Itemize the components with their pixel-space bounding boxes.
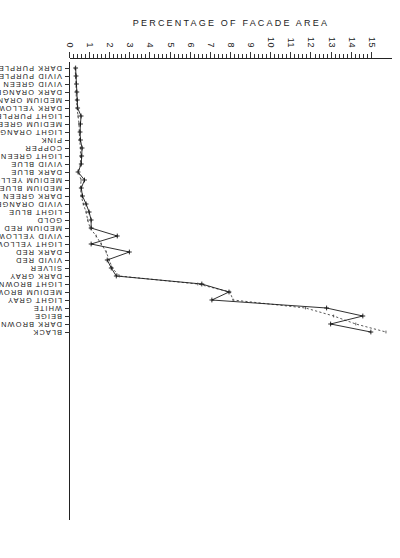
data-point-marker xyxy=(324,306,329,311)
data-point-marker xyxy=(80,194,85,199)
rotated-chart-canvas: 0123456789101112131415 PERCENTAGE OF FAC… xyxy=(0,0,400,558)
data-point-marker xyxy=(87,210,92,215)
data-point-marker xyxy=(127,250,132,255)
data-point-marker xyxy=(78,130,83,135)
value-axis-spine xyxy=(70,58,392,59)
data-point-marker xyxy=(75,98,80,103)
data-point-marker xyxy=(79,186,84,191)
data-point-marker xyxy=(78,138,83,143)
solid-series-markers xyxy=(73,66,386,335)
data-point-marker xyxy=(360,314,365,319)
data-point-marker xyxy=(209,298,214,303)
data-point-marker xyxy=(89,218,94,223)
series-layer xyxy=(0,0,400,558)
data-point-marker xyxy=(89,242,94,247)
chart-figure: 0123456789101112131415 PERCENTAGE OF FAC… xyxy=(0,0,400,558)
data-point-marker xyxy=(328,322,333,327)
data-point-marker xyxy=(74,82,79,87)
data-point-marker xyxy=(84,202,89,207)
data-point-marker xyxy=(227,290,232,295)
data-point-marker xyxy=(74,90,79,95)
data-point-marker xyxy=(79,162,84,167)
data-point-marker xyxy=(115,234,120,239)
data-point-marker xyxy=(75,106,80,111)
data-point-marker xyxy=(109,266,114,271)
data-point-marker xyxy=(74,74,79,79)
plot-area: 0123456789101112131415 PERCENTAGE OF FAC… xyxy=(0,0,400,558)
data-point-marker xyxy=(79,114,84,119)
solid-series-path xyxy=(76,68,371,332)
data-point-marker xyxy=(79,154,84,159)
data-point-marker xyxy=(368,330,373,335)
data-point-marker xyxy=(73,66,78,71)
